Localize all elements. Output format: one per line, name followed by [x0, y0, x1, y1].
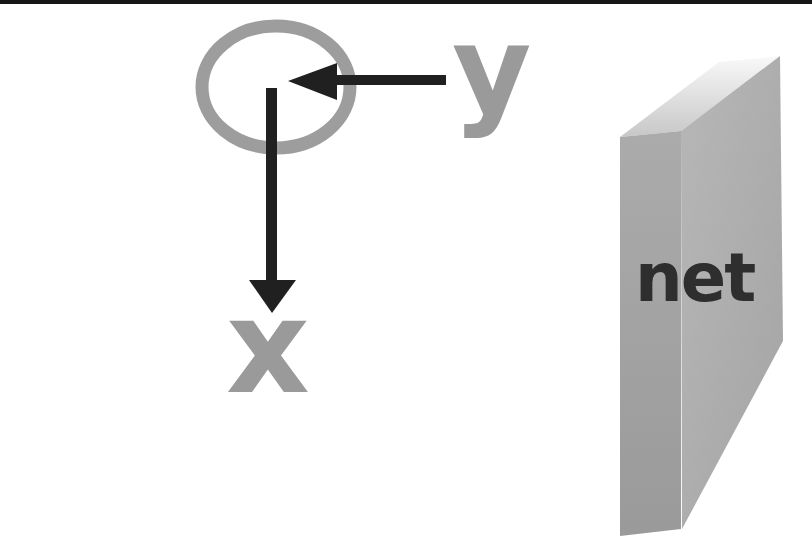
- net-box-label: net: [635, 245, 754, 312]
- x-axis-label: x: [226, 282, 310, 412]
- y-axis-arrow-head: [288, 63, 337, 100]
- x-axis-arrow-shaft: [266, 88, 277, 284]
- y-axis-arrow-icon: [288, 63, 446, 100]
- figure-canvas: y x net: [0, 0, 812, 551]
- y-axis-arrow-shaft: [332, 75, 446, 85]
- net-box-side-face: [620, 131, 681, 536]
- y-axis-label: y: [452, 9, 532, 131]
